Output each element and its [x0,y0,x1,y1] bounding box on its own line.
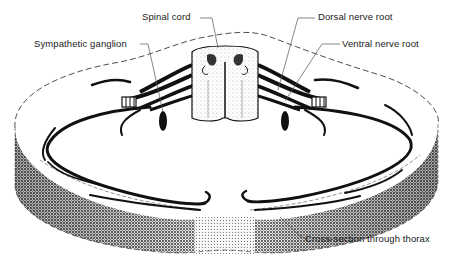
label-ventral-nerve-root: Ventral nerve root [342,38,419,49]
label-dorsal-nerve-root: Dorsal nerve root [318,11,393,22]
label-sympathetic-ganglion: Sympathetic ganglion [34,38,127,49]
label-spinal-cord: Spinal cord [142,11,191,22]
label-cross-section: Cross-section through thorax [305,233,430,244]
spinal-cord [192,46,258,121]
